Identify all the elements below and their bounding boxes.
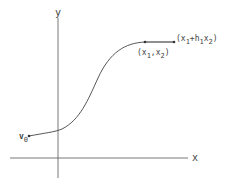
label-part: ) [165,48,170,57]
x-axis-label: x [192,152,198,163]
label-part: (x [137,48,147,57]
label-part: ,x [151,48,161,57]
y-axis-label: y [55,7,61,18]
trajectory-curve [29,42,145,136]
point-x1-plus-h1x2-label: (x1+h1x2) [176,34,218,46]
label-part: (x [176,34,186,43]
label-part: +h [190,34,200,43]
start-point [28,135,31,138]
point-x1-x2 [144,41,147,44]
point-x1-x2-label: (x1,x2) [137,48,170,60]
diagram-canvas: y x v0 (x1,x2) (x1+h1x2) [0,0,229,186]
point-x1-plus-h1x2 [173,41,176,44]
start-label: v0 [19,132,28,144]
label-part: ) [213,34,218,43]
